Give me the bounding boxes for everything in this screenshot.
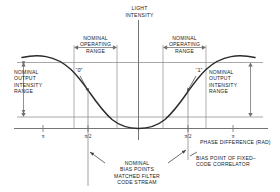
output-range-right-arrow-up — [248, 63, 252, 67]
nominal-bias-points-label: NOMINAL BIAS POINTS MATCHED FILTER CODE … — [106, 160, 168, 185]
x-axis-label: PHASE DIFFERENCE (RAD) — [200, 139, 278, 145]
state-zero-label: “0” — [68, 67, 90, 73]
output-intensity-range-left-label: NOMINAL OUTPUT INTENSITY RANGE — [14, 69, 62, 94]
bias-points-leader-left — [90, 152, 105, 163]
figure-container: LIGHT INTENSITY NOMINAL OPERATING RANGE … — [0, 0, 280, 192]
operating-range-right-label: NOMINAL OPERATING RANGE — [151, 35, 218, 54]
output-range-right-arrow-down — [248, 113, 252, 117]
output-range-left-arrow-up — [21, 63, 25, 67]
state-one-leader — [187, 76, 196, 92]
output-range-left-arrow-down — [21, 113, 25, 117]
output-intensity-range-right-label: NOMINAL OUTPUT INTENSITY RANGE — [209, 69, 261, 94]
chart-title-line-1: LIGHT — [102, 5, 177, 11]
state-one-label: “1” — [188, 67, 210, 73]
operating-range-left-label: NOMINAL OPERATING RANGE — [62, 35, 129, 54]
fixed-code-correlator-label: BIAS POINT OF FIXED– CODE CORRELATOR — [196, 155, 278, 168]
bias-points-leader-right — [168, 150, 186, 163]
x-tick-label-left-outer: π — [33, 133, 53, 139]
state-zero-leader — [80, 76, 89, 92]
x-tick-label-left-inner: π/2 — [78, 133, 98, 139]
x-tick-label-right-inner: π/2 — [178, 133, 198, 139]
chart-title-line-2: INTENSITY — [102, 12, 177, 18]
